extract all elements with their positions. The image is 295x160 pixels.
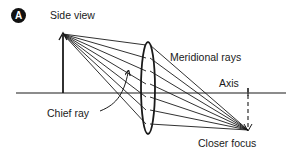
- label-closer-focus: Closer focus: [198, 138, 256, 149]
- label-axis: Axis: [219, 78, 239, 89]
- label-meridional-rays: Meridional rays: [170, 52, 241, 63]
- panel-badge: A: [11, 8, 26, 23]
- label-chief-ray: Chief ray: [47, 108, 89, 119]
- ray-diagram-svg: [0, 0, 295, 160]
- lens-shape: [141, 42, 155, 134]
- figure-title: Side view: [50, 10, 95, 21]
- optics-diagram: A Side view Meridional rays Axis Chief r…: [0, 0, 295, 160]
